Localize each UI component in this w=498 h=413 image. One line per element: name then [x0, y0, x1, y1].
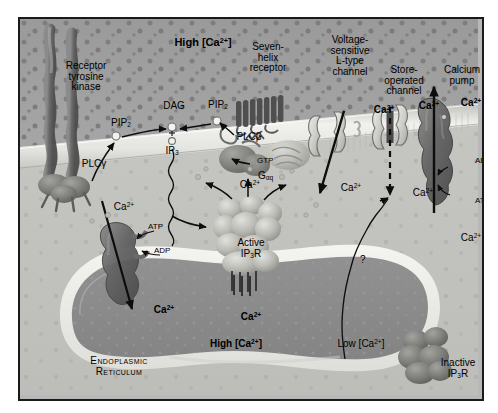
plasma-pump-atp-label: ATP [475, 197, 484, 205]
endoplasmic-reticulum-label: EndoplasmicReticulum [90, 356, 147, 377]
calcium-pump-label: Calciumpump [444, 65, 480, 86]
unknown-signal-question-mark: ? [360, 255, 366, 266]
plc-beta-label: PLCβ [236, 132, 261, 143]
pip2-left-label: PIP2 [111, 118, 131, 129]
inactive-ip3r-label: InactiveIP3R [441, 358, 475, 379]
figure-frame: High [Ca2+] Receptortyrosinekinase Seven… [18, 17, 484, 401]
ip3r-release-ca-label: Ca2+ [240, 179, 260, 190]
ip3-label: IP3 [165, 146, 178, 157]
extracellular-concentration-label: High [Ca2+] [174, 37, 231, 49]
dag-label: DAG [163, 101, 185, 112]
receptor-tyrosine-kinase-label: Receptortyrosinekinase [66, 61, 107, 93]
pump-cytosolic-ca-label: Ca2+ [461, 232, 481, 243]
er-concentration-label: High [Ca2+] [210, 338, 262, 349]
er-lumen-ca-label: Ca2+ [154, 304, 174, 315]
gtp-label: GTP [257, 157, 273, 165]
l-type-cytosolic-ca-label: Ca2+ [341, 182, 361, 193]
seven-helix-receptor-label: Seven-helixreceptor [250, 42, 287, 74]
pump-extracellular-ca-label: Ca2+ [461, 97, 481, 108]
cytosol-concentration-label: Low [Ca2+] [338, 338, 385, 349]
store-operated-channel-label: Store-operatedchannel [384, 65, 423, 97]
l-type-extracellular-ca-label: Ca2+ [374, 104, 394, 115]
calcium-signaling-figure: High [Ca2+] Receptortyrosinekinase Seven… [0, 0, 498, 413]
plasma-pump-adp-label: ADP [475, 157, 484, 165]
er-pump-adp-label: ADP [154, 247, 170, 255]
active-ip3r-label: ActiveIP3R [237, 238, 264, 259]
l-type-channel-label: Voltage-sensitiveL-typechannel [331, 35, 370, 77]
g-alpha-q-label: Gαq [258, 171, 273, 182]
store-operated-extracellular-ca-label: Ca2+ [419, 100, 439, 111]
pip2-right-label: PIP2 [208, 100, 228, 111]
store-operated-cytosolic-ca-label: Ca2+ [413, 187, 433, 198]
er-pump-atp-label: ATP [148, 223, 163, 231]
ip3r-lumen-ca-label: Ca2+ [241, 311, 261, 322]
er-pump-cytosolic-ca-label: Ca2+ [114, 201, 134, 212]
plc-gamma-label: PLCγ [82, 159, 106, 170]
